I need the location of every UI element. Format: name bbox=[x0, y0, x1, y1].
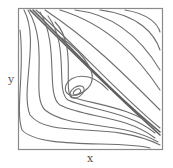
trajectories bbox=[19, 10, 160, 148]
phase-portrait bbox=[0, 0, 173, 168]
x-axis-label: x bbox=[87, 152, 93, 165]
y-axis-label: y bbox=[8, 73, 14, 86]
spiral-center bbox=[72, 88, 81, 97]
plot-frame bbox=[19, 9, 163, 150]
